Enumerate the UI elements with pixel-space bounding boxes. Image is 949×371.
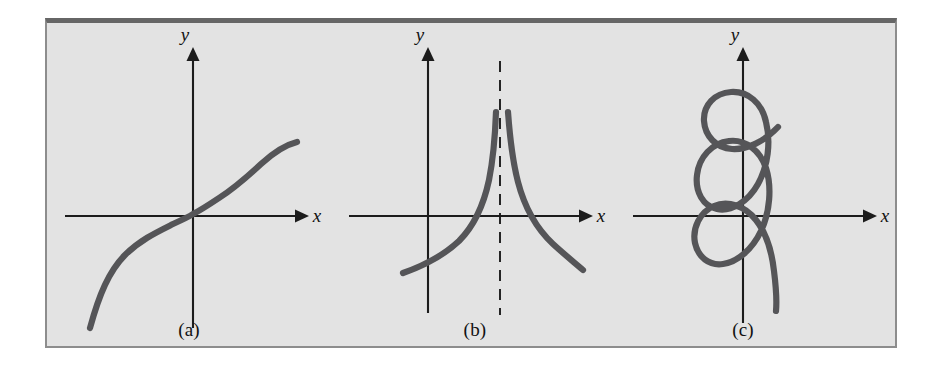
y-axis-a bbox=[187, 47, 200, 328]
curve-b-right-branch bbox=[508, 112, 583, 270]
curve-c-render bbox=[694, 92, 778, 311]
panel-c: x y (c) bbox=[615, 23, 899, 346]
y-axis-label-c: y bbox=[729, 24, 740, 45]
panel-caption-b: (b) bbox=[333, 319, 617, 341]
panel-a: x y (a) bbox=[47, 23, 331, 346]
x-axis-label-c: x bbox=[880, 205, 890, 226]
panel-b: x y (b) bbox=[331, 23, 615, 346]
panel-a-plot: x y bbox=[47, 23, 331, 348]
x-axis-label-a: x bbox=[312, 205, 322, 226]
y-axis-label-a: y bbox=[179, 24, 190, 45]
y-axis-c bbox=[737, 47, 750, 323]
figure-root: x y (a) bbox=[0, 0, 949, 371]
y-axis-b bbox=[422, 47, 435, 313]
panel-c-plot: x y bbox=[615, 23, 899, 348]
y-axis-label-b: y bbox=[414, 24, 425, 45]
panel-caption-a: (a) bbox=[47, 319, 331, 341]
curve-b-left-branch bbox=[403, 112, 496, 273]
x-axis-label-b: x bbox=[596, 205, 606, 226]
panel-b-plot: x y bbox=[331, 23, 615, 348]
figure-plate: x y (a) bbox=[45, 18, 897, 348]
panel-caption-c: (c) bbox=[601, 319, 885, 341]
